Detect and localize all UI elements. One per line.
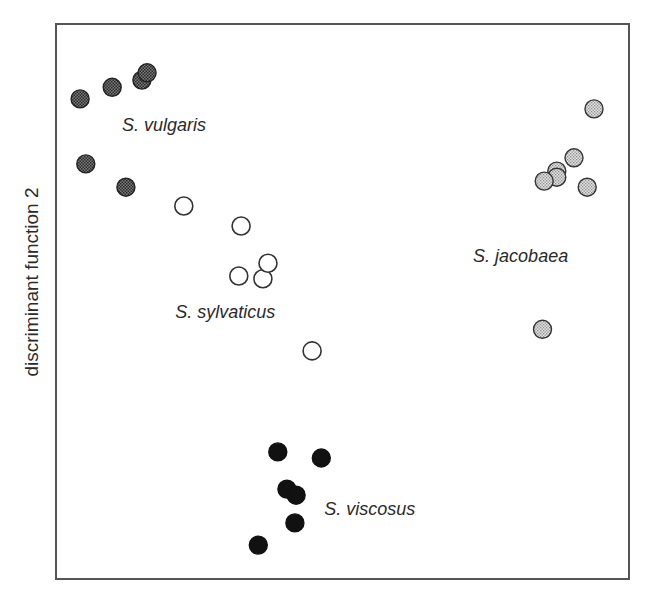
data-point-viscosus xyxy=(287,486,305,504)
data-point-vulgaris xyxy=(117,178,135,196)
series-viscosus xyxy=(249,443,330,554)
data-point-vulgaris xyxy=(103,78,121,96)
series-sylvaticus xyxy=(175,197,321,360)
group-label-viscosus: S. viscosus xyxy=(324,499,415,519)
data-point-sylvaticus xyxy=(230,267,248,285)
data-point-vulgaris xyxy=(77,155,95,173)
data-point-jacobaea xyxy=(534,320,552,338)
group-labels: S. vulgarisS. sylvaticusS. jacobaeaS. vi… xyxy=(122,115,568,520)
plot-frame xyxy=(56,24,629,579)
group-label-sylvaticus: S. sylvaticus xyxy=(175,302,275,322)
data-point-jacobaea xyxy=(535,172,553,190)
data-point-viscosus xyxy=(269,443,287,461)
data-point-viscosus xyxy=(286,514,304,532)
data-point-jacobaea xyxy=(565,149,583,167)
group-label-vulgaris: S. vulgaris xyxy=(122,115,206,135)
data-point-viscosus xyxy=(312,449,330,467)
group-label-jacobaea: S. jacobaea xyxy=(473,246,568,266)
series-jacobaea xyxy=(534,100,604,338)
scatter-chart: discriminant function 2 S. vulgarisS. sy… xyxy=(0,0,650,595)
data-point-sylvaticus xyxy=(175,197,193,215)
data-point-sylvaticus xyxy=(303,342,321,360)
data-point-sylvaticus xyxy=(232,217,250,235)
data-point-jacobaea xyxy=(585,100,603,118)
data-point-viscosus xyxy=(249,536,267,554)
data-point-vulgaris xyxy=(138,64,156,82)
data-point-jacobaea xyxy=(578,178,596,196)
data-point-vulgaris xyxy=(71,90,89,108)
data-point-sylvaticus xyxy=(259,254,277,272)
y-axis-label: discriminant function 2 xyxy=(21,187,42,376)
series-layer xyxy=(71,64,603,554)
